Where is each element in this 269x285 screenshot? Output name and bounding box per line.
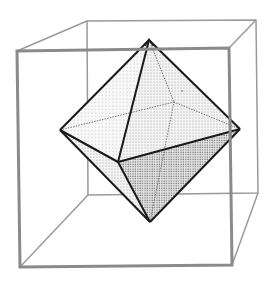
octahedron-in-cube-diagram [0, 0, 269, 285]
stray-dot [181, 90, 183, 92]
